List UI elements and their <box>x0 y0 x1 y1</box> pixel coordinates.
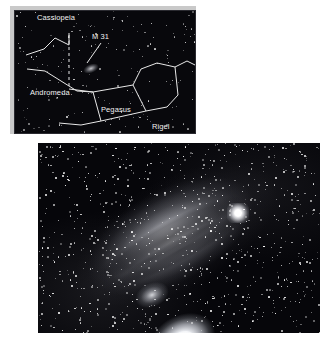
chart-label-rigel: Rigel <box>152 123 170 131</box>
star-chart-inset: Cassiopeia M 31 Andromeda Pegasus Rigel <box>14 10 196 134</box>
chart-label-pegasus: Pegasus <box>101 106 131 114</box>
constellation-lines <box>15 11 196 134</box>
andromeda-galaxy-photograph <box>38 143 320 333</box>
chart-label-cassiopeia: Cassiopeia <box>37 14 75 22</box>
photo-star-field <box>38 143 320 333</box>
chart-label-m31: M 31 <box>92 33 109 41</box>
chart-label-andromeda: Andromeda <box>30 89 70 97</box>
